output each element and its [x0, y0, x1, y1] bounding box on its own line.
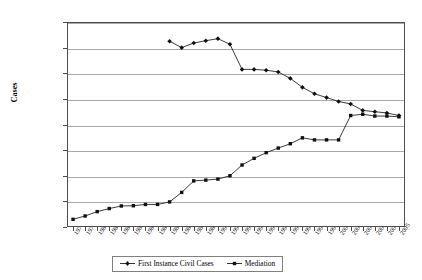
- x-axis-tick-mark: [133, 227, 134, 231]
- x-axis-tick-mark: [399, 227, 400, 231]
- legend-label: First Instance Civil Cases: [138, 259, 214, 268]
- legend-marker-square-icon: [227, 260, 242, 267]
- chart-figure: Cases 0100000020000003000000400000050000…: [0, 0, 422, 280]
- y-axis-tick-mark: [63, 227, 67, 228]
- x-axis-tick-mark: [109, 227, 110, 231]
- x-axis-tick-mark: [158, 227, 159, 231]
- gridline: [68, 177, 404, 178]
- gridline: [68, 100, 404, 101]
- x-axis-tick-mark: [314, 227, 315, 231]
- x-axis-tick-mark: [97, 227, 98, 231]
- x-axis-tick-mark: [121, 227, 122, 231]
- gridline: [68, 126, 404, 127]
- x-axis-tick-mark: [387, 227, 388, 231]
- legend-item-mediation: Mediation: [227, 259, 275, 268]
- x-axis-tick-mark: [266, 227, 267, 231]
- x-axis-tick-mark: [206, 227, 207, 231]
- x-axis-tick-mark: [302, 227, 303, 231]
- x-axis-tick-mark: [375, 227, 376, 231]
- x-axis-tick-mark: [73, 227, 74, 231]
- x-axis-tick-mark: [327, 227, 328, 231]
- y-axis-title: Cases: [10, 63, 19, 123]
- gridline: [68, 23, 404, 24]
- x-axis-tick-mark: [194, 227, 195, 231]
- x-axis-tick-mark: [170, 227, 171, 231]
- x-axis-tick-mark: [339, 227, 340, 231]
- gridline: [68, 151, 404, 152]
- chart-legend: First Instance Civil Cases Mediation: [112, 256, 283, 272]
- x-axis-tick-mark: [145, 227, 146, 231]
- x-axis-tick-mark: [351, 227, 352, 231]
- legend-label: Mediation: [245, 259, 275, 268]
- plot-area: [67, 22, 405, 227]
- x-axis-tick-mark: [218, 227, 219, 231]
- x-axis-tick-mark: [363, 227, 364, 231]
- x-axis-tick-mark: [254, 227, 255, 231]
- gridline: [68, 202, 404, 203]
- gridline: [68, 74, 404, 75]
- x-axis-tick-mark: [242, 227, 243, 231]
- x-axis-tick-mark: [230, 227, 231, 231]
- legend-marker-diamond-icon: [120, 260, 135, 267]
- gridline: [68, 49, 404, 50]
- x-axis-tick-mark: [278, 227, 279, 231]
- x-axis-tick-mark: [85, 227, 86, 231]
- x-axis-tick-mark: [182, 227, 183, 231]
- x-axis-tick-mark: [290, 227, 291, 231]
- legend-item-first-instance-civil-cases: First Instance Civil Cases: [120, 259, 214, 268]
